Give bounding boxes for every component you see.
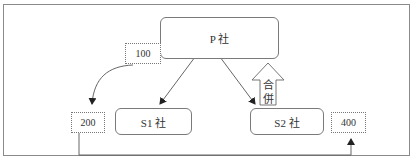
edge-p-to-s2 — [220, 57, 255, 104]
node-s1-company: S1 社 — [115, 108, 192, 135]
merge-arrow-label: 合併 — [262, 79, 273, 107]
amount-400-label: 400 — [341, 117, 356, 128]
amount-100-label: 100 — [136, 48, 151, 59]
node-s1-label: S1 社 — [141, 114, 166, 130]
node-s2-company: S2 社 — [250, 108, 324, 135]
node-s2-label: S2 社 — [274, 114, 299, 130]
amount-box-400: 400 — [331, 112, 366, 133]
node-parent-label: P 社 — [210, 30, 229, 46]
edge-p-to-s1 — [160, 57, 195, 104]
amount-box-200: 200 — [71, 112, 105, 133]
edge-100-to-200 — [92, 65, 133, 104]
node-parent-company: P 社 — [160, 17, 279, 59]
amount-200-label: 200 — [81, 117, 96, 128]
edge-200-to-400 — [79, 133, 351, 155]
amount-box-100: 100 — [125, 43, 161, 64]
